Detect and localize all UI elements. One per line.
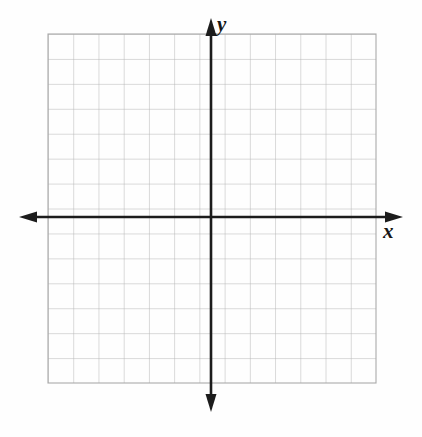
graph-canvas xyxy=(0,0,422,437)
y-axis-arrow-up-icon xyxy=(206,18,217,36)
y-axis-arrow-down-icon xyxy=(206,394,217,412)
coordinate-plane-figure: y x xyxy=(0,0,422,437)
x-axis-arrow-left-icon xyxy=(19,212,37,223)
y-axis-label: y xyxy=(217,14,226,35)
x-axis-label: x xyxy=(383,221,394,242)
